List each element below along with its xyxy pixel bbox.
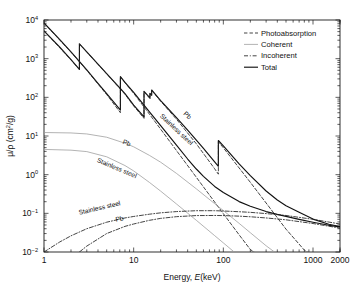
svg-text:Stainless steel: Stainless steel bbox=[96, 156, 138, 179]
curve-annotations: PbStainless steelPbStainless steelStainl… bbox=[78, 110, 195, 223]
svg-text:Pb: Pb bbox=[182, 110, 193, 121]
svg-text:μ/ρ (cm2/g): μ/ρ (cm2/g) bbox=[5, 115, 15, 157]
y-tick-label: 104 bbox=[25, 15, 38, 25]
y-axis-title: μ/ρ (cm2/g) bbox=[5, 115, 15, 157]
x-tick-label: 1 bbox=[42, 255, 47, 265]
legend-label-coherent: Coherent bbox=[261, 40, 293, 49]
svg-text:Stainless steel: Stainless steel bbox=[78, 199, 122, 216]
series-photoabsorption-stainless-steel bbox=[44, 23, 286, 260]
curve-label: Pb bbox=[115, 214, 125, 222]
svg-text:Pb: Pb bbox=[122, 138, 132, 147]
y-tick-labels: 10−210−1100101102103104 bbox=[22, 15, 38, 257]
y-tick-label: 102 bbox=[25, 92, 38, 102]
legend-label-incoherent: Incoherent bbox=[261, 51, 298, 60]
series-coherent-stainless-steel bbox=[44, 149, 304, 260]
y-tick-label: 10−2 bbox=[22, 247, 38, 257]
series-photoabsorption-pb bbox=[44, 31, 320, 261]
legend: PhotoabsorptionCoherentIncoherentTotal bbox=[244, 29, 316, 72]
x-tick-label: 2000 bbox=[331, 255, 350, 265]
svg-text:Pb: Pb bbox=[115, 214, 125, 222]
legend-label-total: Total bbox=[261, 63, 277, 72]
y-tick-label: 10−1 bbox=[22, 208, 38, 218]
curve-label: Pb bbox=[122, 138, 132, 147]
legend-label-photoabsorption: Photoabsorption bbox=[261, 29, 316, 38]
curve-label: Stainless steel bbox=[96, 156, 138, 179]
figure-container: 1101001000200010−210−1100101102103104Ene… bbox=[0, 0, 353, 291]
x-axis-title: Energy, E(keV) bbox=[163, 272, 220, 282]
attenuation-chart: 1101001000200010−210−1100101102103104Ene… bbox=[0, 0, 353, 291]
y-tick-label: 103 bbox=[25, 53, 38, 63]
x-tick-labels: 11010010002000 bbox=[42, 255, 350, 265]
x-tick-label: 10 bbox=[129, 255, 139, 265]
y-tick-label: 101 bbox=[25, 131, 38, 141]
y-tick-label: 100 bbox=[25, 169, 38, 179]
curve-label: Pb bbox=[182, 110, 193, 121]
x-tick-label: 100 bbox=[216, 255, 230, 265]
curve-label: Stainless steel bbox=[78, 199, 122, 216]
x-tick-label: 1000 bbox=[304, 255, 323, 265]
